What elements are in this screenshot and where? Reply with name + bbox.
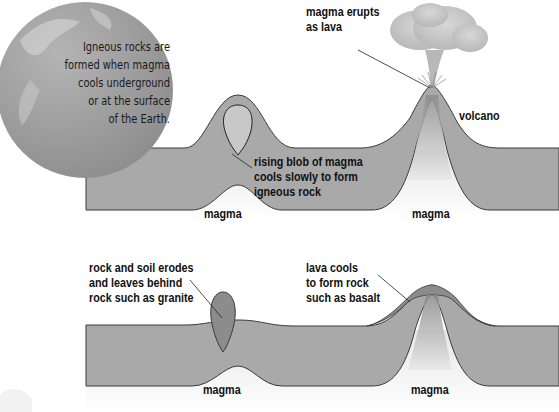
label-magma-bottom-right: magma — [411, 383, 449, 397]
label-volcano: volcano — [459, 109, 500, 124]
label-granite: rock and soil erodes and leaves behind r… — [89, 261, 194, 306]
label-magma-bottom-left: magma — [203, 383, 241, 397]
globe-caption: Igneous rocks are formed when magma cool… — [55, 38, 170, 128]
label-magma-erupts: magma erupts as lava — [306, 5, 379, 35]
eruption-cloud — [390, 3, 488, 88]
basalt-pointer-line — [378, 275, 410, 302]
igneous-rock-diagram: Igneous rocks are formed when magma cool… — [0, 0, 559, 412]
label-magma-top-left: magma — [204, 207, 242, 221]
eruption-pointer-line — [358, 50, 430, 88]
label-basalt: lava cools to form rock such as basalt — [306, 261, 380, 306]
faint-globe-edge — [0, 389, 32, 412]
label-rising-blob: rising blob of magma cools slowly to for… — [254, 155, 363, 200]
label-magma-top-right: magma — [412, 207, 450, 221]
